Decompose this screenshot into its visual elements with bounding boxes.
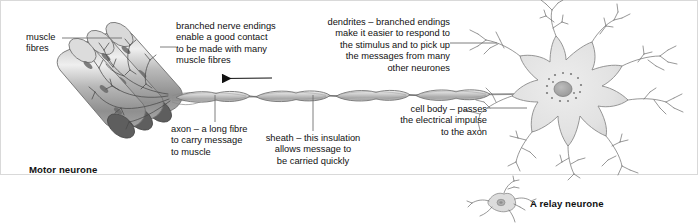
label-dendrites: dendrites – branched endings make it eas… xyxy=(304,17,450,74)
diagram-canvas: muscle fibres branched nerve endings ena… xyxy=(0,0,699,224)
title-relay-neurone: A relay neurone xyxy=(530,198,650,209)
label-cell-body: cell body – passes the electrical impuls… xyxy=(375,104,487,138)
label-muscle-fibres: muscle fibres xyxy=(26,32,68,55)
title-motor-neurone: Motor neurone xyxy=(29,164,149,175)
label-sheath: sheath – this insulation allows message … xyxy=(253,133,373,167)
relay-neurone-group xyxy=(467,176,536,222)
label-branched-nerve-endings: branched nerve endings enable a good con… xyxy=(176,21,316,67)
